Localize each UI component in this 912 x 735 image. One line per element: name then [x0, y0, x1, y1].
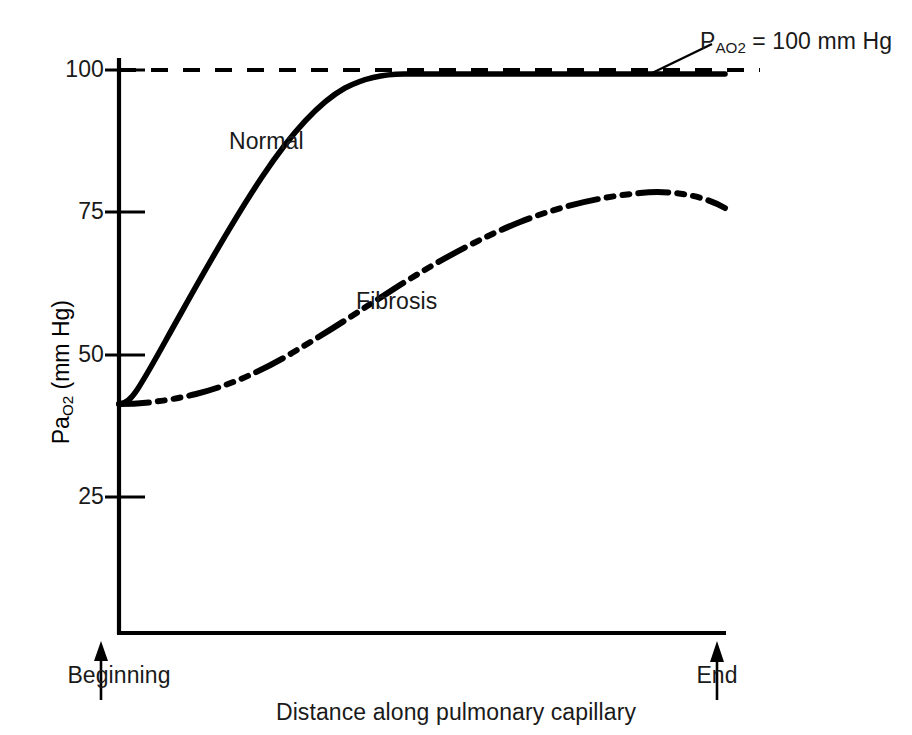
y-axis-title-base: Pa — [48, 416, 74, 444]
chart-plot-area — [0, 0, 912, 735]
series-label-normal: Normal — [229, 128, 304, 155]
chart-figure: 100 75 50 25 PaO2 (mm Hg) Normal Fibrosi… — [0, 0, 912, 735]
series-label-fibrosis: Fibrosis — [356, 288, 437, 315]
annotation-p: P — [700, 28, 715, 54]
y-axis-title: PaO2 (mm Hg) — [48, 262, 76, 482]
x-axis-label-end: End — [657, 662, 777, 689]
y-tick-label-100: 100 — [18, 56, 104, 83]
y-axis-title-units: (mm Hg) — [48, 300, 74, 396]
y-tick-label-25: 25 — [18, 483, 104, 510]
annotation-subscript-2: 2 — [737, 39, 745, 56]
y-tick-label-75: 75 — [18, 198, 104, 225]
x-axis-label-beginning: Beginning — [59, 662, 179, 689]
alveolar-po2-annotation: PAO2 = 100 mm Hg — [700, 28, 892, 56]
x-axis-title: Distance along pulmonary capillary — [0, 699, 912, 726]
annotation-subscript-ao: AO — [715, 39, 737, 56]
annotation-value: = 100 mm Hg — [746, 28, 892, 54]
normal-curve — [119, 74, 725, 404]
y-axis-title-subscript-number: 2 — [59, 396, 76, 404]
y-axis-title-subscript: O — [59, 404, 76, 416]
